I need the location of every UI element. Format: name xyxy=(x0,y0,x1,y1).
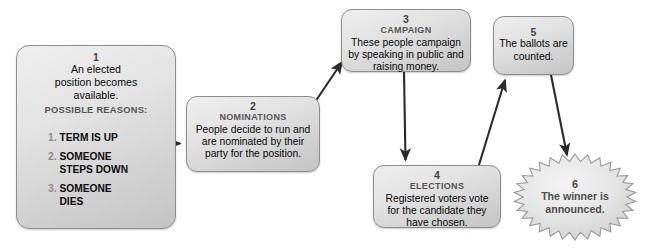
node-5-body: The ballots are counted. xyxy=(499,38,568,63)
connector-5-to-6 xyxy=(551,75,567,155)
node-6-text-wrap: 6 The winner is announced. xyxy=(513,153,637,241)
node-4-number: 4 xyxy=(434,169,440,181)
flowchart-diagram: 1 An elected position becomes available.… xyxy=(0,0,649,251)
connector-4-to-5 xyxy=(478,80,505,168)
node-3-body: These people campaign by speaking in pub… xyxy=(347,37,465,74)
reason-3-number: 3. xyxy=(48,183,57,195)
flow-node-4[interactable]: 4 ELECTIONS Registered voters vote for t… xyxy=(373,165,501,228)
reason-2-number: 2. xyxy=(48,151,57,163)
node-2-subtitle: NOMINATIONS xyxy=(219,112,286,123)
flow-node-6[interactable]: 6 The winner is announced. xyxy=(513,153,637,241)
connector-3-to-4 xyxy=(404,72,406,160)
reason-2-text: SOMEONE STEPS DOWN xyxy=(60,151,129,176)
reason-1-text: TERM IS UP xyxy=(60,132,118,144)
node-2-body: People decide to run and are nominated b… xyxy=(192,124,314,161)
list-item: 2. SOMEONE STEPS DOWN xyxy=(48,151,170,176)
node-4-body: Registered voters vote for the candidate… xyxy=(379,193,495,230)
flow-node-1[interactable]: 1 An elected position becomes available.… xyxy=(16,45,176,229)
node-1-body: An elected position becomes available. xyxy=(55,63,137,102)
flow-node-2[interactable]: 2 NOMINATIONS People decide to run and a… xyxy=(186,96,320,172)
list-item: 3. SOMEONE DIES xyxy=(48,183,170,208)
node-1-number: 1 xyxy=(93,51,99,63)
node-2-number: 2 xyxy=(250,100,256,112)
node-6-body: The winner is announced. xyxy=(513,190,637,216)
node-1-reasons-heading: POSSIBLE REASONS: xyxy=(45,104,148,116)
list-item: 1. TERM IS UP xyxy=(48,132,170,144)
node-3-number: 3 xyxy=(403,13,409,25)
node-1-reason-list: 1. TERM IS UP 2. SOMEONE STEPS DOWN 3. S… xyxy=(22,132,170,215)
node-6-number: 6 xyxy=(572,178,578,190)
reason-3-text: SOMEONE DIES xyxy=(60,183,112,208)
flow-node-5[interactable]: 5 The ballots are counted. xyxy=(493,16,574,75)
node-4-subtitle: ELECTIONS xyxy=(410,181,465,192)
node-5-number: 5 xyxy=(531,26,537,38)
reason-1-number: 1. xyxy=(48,132,57,144)
connector-2-to-3 xyxy=(313,62,342,105)
flow-node-3[interactable]: 3 CAMPAIGN These people campaign by spea… xyxy=(341,9,471,72)
node-3-subtitle: CAMPAIGN xyxy=(380,25,431,36)
